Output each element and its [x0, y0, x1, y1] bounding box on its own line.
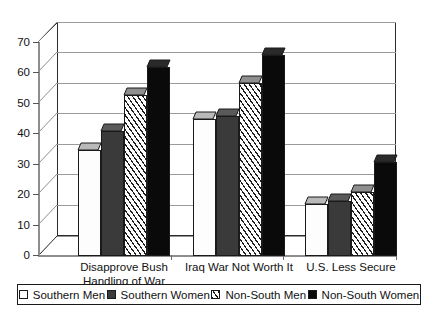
bar-top-face	[216, 109, 239, 116]
bar-top-face	[124, 88, 147, 95]
legend-swatch-icon	[308, 290, 317, 299]
bar-front-face	[239, 83, 262, 256]
bar	[124, 95, 147, 256]
bar-top-face	[351, 185, 374, 192]
bar-top-face	[193, 112, 216, 119]
bar	[328, 201, 351, 256]
y-tick-mark	[33, 225, 39, 226]
bar-front-face	[101, 131, 124, 256]
bar-top-face	[305, 197, 328, 204]
bar	[239, 83, 262, 256]
y-tick-label: 50	[17, 97, 30, 109]
bar-front-face	[328, 201, 351, 256]
x-tick-mark	[171, 255, 172, 260]
bar-front-face	[351, 192, 374, 256]
gridline-connector	[38, 22, 58, 42]
legend-label: Non-South Men	[225, 289, 306, 301]
bar-front-face	[147, 67, 170, 256]
legend-label: Southern Women	[121, 289, 210, 301]
legend-swatch-icon	[19, 290, 28, 299]
y-tick-mark	[33, 194, 39, 195]
y-tick-label: 10	[17, 219, 30, 231]
legend-label: Non-South Women	[322, 289, 420, 301]
legend-swatch-icon	[107, 290, 116, 299]
legend-item[interactable]: Non-South Women	[308, 289, 420, 301]
gridline-connector	[38, 174, 58, 194]
y-tick-mark	[33, 255, 39, 256]
y-tick-mark	[33, 164, 39, 165]
legend-item[interactable]: Southern Women	[107, 289, 210, 301]
bar	[216, 116, 239, 256]
bar	[305, 204, 328, 256]
bar	[147, 67, 170, 256]
legend-item[interactable]: Southern Men	[19, 289, 105, 301]
bar-front-face	[216, 116, 239, 256]
bar-top-face	[328, 194, 351, 201]
y-tick-label: 20	[17, 188, 30, 200]
gridline-connector	[38, 83, 58, 103]
bar	[374, 162, 397, 256]
bar-top-face	[147, 60, 170, 67]
bar-front-face	[262, 55, 285, 256]
bar-top-face	[78, 143, 101, 150]
gridline	[57, 83, 396, 84]
bar-top-face	[239, 76, 262, 83]
gridline	[57, 52, 396, 53]
gridline-connector	[38, 144, 58, 164]
bar	[101, 131, 124, 256]
gridline-connector	[38, 52, 58, 72]
bar-front-face	[305, 204, 328, 256]
category-label: U.S. Less Secure	[281, 261, 421, 275]
bar-front-face	[193, 119, 216, 256]
y-tick-label: 60	[17, 66, 30, 78]
legend-label: Southern Men	[33, 289, 105, 301]
y-tick-mark	[33, 133, 39, 134]
bar-top-face	[374, 155, 397, 162]
category-label-line1: Disapprove Bush	[80, 261, 168, 273]
gridline	[57, 22, 396, 23]
chart-legend: Southern MenSouthern WomenNon-South MenN…	[17, 284, 421, 305]
bar-chart: 706050403020100 Disapprove BushHandling …	[0, 0, 436, 313]
gridline-connector	[38, 113, 58, 133]
y-tick-label: 0	[24, 249, 30, 261]
legend-item[interactable]: Non-South Men	[211, 289, 306, 301]
bar	[78, 150, 101, 257]
bar-front-face	[124, 95, 147, 256]
gridline-connector	[38, 205, 58, 225]
bar	[262, 55, 285, 256]
bar-top-face	[262, 48, 285, 55]
y-tick-label: 40	[17, 127, 30, 139]
category-label-line1: U.S. Less Secure	[306, 261, 395, 273]
y-tick-mark	[33, 103, 39, 104]
y-tick-mark	[33, 72, 39, 73]
bar	[193, 119, 216, 256]
y-tick-mark	[33, 42, 39, 43]
category-label-line1: Iraq War Not Worth It	[185, 261, 293, 273]
plot-area: 706050403020100	[38, 22, 396, 256]
legend-swatch-icon	[211, 290, 220, 299]
bar-front-face	[78, 150, 101, 257]
bar-top-face	[101, 124, 124, 131]
bar-front-face	[374, 162, 397, 256]
y-tick-label: 30	[17, 158, 30, 170]
y-tick-label: 70	[17, 36, 30, 48]
bar	[351, 192, 374, 256]
